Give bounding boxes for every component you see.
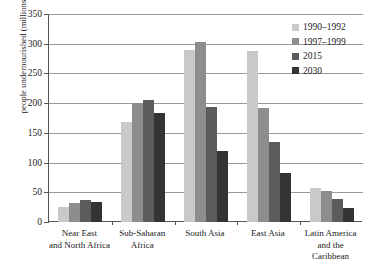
bar[interactable] [217, 151, 228, 222]
bar[interactable] [91, 202, 102, 222]
bar[interactable] [121, 122, 132, 222]
x-axis-label: Sub-SaharanAfrica [111, 228, 174, 263]
legend-swatch-icon [292, 67, 299, 74]
x-axis-label-line: Near East [62, 228, 97, 238]
x-axis-label: Latin Americaand the Caribbean [299, 228, 362, 263]
legend-label: 1990–1992 [303, 22, 346, 32]
bar[interactable] [80, 200, 91, 222]
y-tick-label: 150 [28, 128, 42, 138]
x-axis-labels: Near Eastand North AfricaSub-SaharanAfri… [48, 228, 362, 263]
x-axis-label-line: and North Africa [48, 240, 111, 252]
legend-label: 2030 [303, 66, 322, 76]
x-tick-mark [237, 221, 238, 225]
y-tick-label: 350 [28, 9, 42, 19]
bar[interactable] [321, 191, 332, 222]
bar[interactable] [343, 208, 354, 222]
y-tick-label: 100 [28, 158, 42, 168]
bar[interactable] [195, 42, 206, 222]
bar[interactable] [184, 50, 195, 222]
bar-chart: people undernourished (millions) 0501001… [0, 0, 376, 270]
y-tick-label: 300 [28, 39, 42, 49]
x-tick-mark [300, 221, 301, 225]
bar[interactable] [69, 203, 80, 222]
legend-swatch-icon [292, 24, 299, 31]
y-tick-label: 200 [28, 98, 42, 108]
bar[interactable] [58, 207, 69, 222]
legend-swatch-icon [292, 53, 299, 60]
x-axis-label-line: South Asia [185, 228, 224, 238]
y-tick-mark [44, 222, 49, 223]
y-tick-label: 50 [33, 187, 43, 197]
bar[interactable] [310, 188, 321, 222]
bar-group [175, 14, 238, 222]
x-tick-mark [112, 221, 113, 225]
legend-item[interactable]: 2015 [292, 49, 346, 64]
bar[interactable] [258, 108, 269, 222]
legend-swatch-icon [292, 38, 299, 45]
y-tick-label: 250 [28, 68, 42, 78]
x-axis-label: South Asia [174, 228, 237, 263]
bar[interactable] [332, 199, 343, 222]
legend-label: 1997–1999 [303, 37, 346, 47]
x-axis-label: East Asia [236, 228, 299, 263]
y-tick-label: 0 [37, 217, 42, 227]
x-axis-label-line: Latin America [305, 228, 357, 238]
bar-group [112, 14, 175, 222]
x-tick-mark [175, 221, 176, 225]
bar[interactable] [143, 100, 154, 222]
bar[interactable] [206, 107, 217, 222]
legend: 1990–19921997–199920152030 [292, 20, 346, 78]
legend-label: 2015 [303, 51, 322, 61]
legend-item[interactable]: 1990–1992 [292, 20, 346, 35]
bar-group [237, 14, 300, 222]
bar[interactable] [247, 51, 258, 222]
bar[interactable] [280, 173, 291, 222]
bar[interactable] [154, 113, 165, 222]
x-axis-label: Near Eastand North Africa [48, 228, 111, 263]
bar[interactable] [132, 103, 143, 222]
bar-group [49, 14, 112, 222]
y-axis-title: people undernourished (millions) [18, 0, 28, 140]
x-axis-label-line: Africa [111, 240, 174, 252]
x-axis-label-line: Sub-Saharan [119, 228, 165, 238]
x-axis-label-line: and the Caribbean [299, 240, 362, 263]
legend-item[interactable]: 2030 [292, 64, 346, 79]
bar[interactable] [269, 142, 280, 222]
x-axis-label-line: East Asia [251, 228, 285, 238]
legend-item[interactable]: 1997–1999 [292, 35, 346, 50]
